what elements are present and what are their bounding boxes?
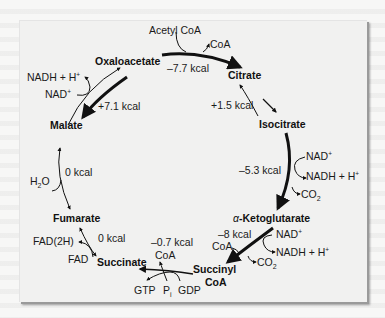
cofactor-co2-isocitrate: CO2 bbox=[301, 188, 321, 202]
metabolite-citrate: Citrate bbox=[228, 69, 261, 81]
arrow-succinate-fumarate bbox=[80, 228, 96, 256]
metabolite-isocitrate: Isocitrate bbox=[259, 118, 306, 130]
arrow-coa-in-akg bbox=[232, 248, 239, 253]
energy-fumarate-malate: 0 kcal bbox=[65, 166, 92, 178]
metabolite-fumarate: Fumarate bbox=[53, 212, 100, 224]
arrow-co2-isocitrate bbox=[292, 187, 300, 194]
metabolite-alpha-ketoglutarate: α-Ketoglutarate bbox=[233, 212, 310, 224]
cofactor-nad-malate: NAD+ bbox=[45, 88, 71, 100]
cofactor-fad2h: FAD(2H) bbox=[33, 235, 74, 247]
arrow-citrate-isocitrate-fwd bbox=[263, 99, 276, 112]
arrow-gdp-gtp bbox=[147, 272, 180, 281]
cofactor-gdp: GDP bbox=[178, 284, 201, 296]
arrow-fumarate-malate bbox=[59, 148, 70, 209]
cofactor-nadh-akg: NADH + H+ bbox=[276, 246, 329, 258]
cofactor-gtp: GTP bbox=[134, 284, 156, 296]
arrow-nad-nadh-isocitrate bbox=[294, 157, 306, 178]
energy-citrate-isocitrate: +1.5 kcal bbox=[211, 99, 253, 111]
cofactor-pi: Pi bbox=[163, 284, 172, 298]
arrow-nad-nadh-malate bbox=[77, 77, 90, 95]
cofactor-fad: FAD bbox=[68, 253, 89, 265]
metabolite-succinyl-coa-2: CoA bbox=[205, 276, 227, 288]
energy-succinylcoa-succinate: –0.7 kcal bbox=[151, 236, 193, 248]
cofactor-nad-akg: NAD+ bbox=[276, 228, 302, 240]
cofactor-coa-out: CoA bbox=[210, 38, 230, 50]
arrow-coa-out bbox=[203, 44, 209, 52]
cofactor-nad-isocitrate: NAD+ bbox=[306, 150, 332, 162]
cofactor-h2o: H2O bbox=[30, 175, 50, 189]
arrow-succinylcoa-to-succinate bbox=[140, 269, 193, 274]
arrow-coa-succinyl bbox=[160, 262, 167, 281]
energy-isocitrate-akg: –5.3 kcal bbox=[239, 164, 281, 176]
arrow-co2-akg bbox=[248, 256, 256, 262]
cofactor-acetyl-coa: Acetyl CoA bbox=[149, 24, 201, 36]
cofactor-coa-succinyl: CoA bbox=[155, 249, 175, 261]
energy-malate-oaa: +7.1 kcal bbox=[98, 100, 140, 112]
arrow-h2o bbox=[52, 180, 61, 191]
metabolite-succinyl-coa-1: Succinyl bbox=[193, 263, 236, 275]
cofactor-co2-akg: CO2 bbox=[257, 256, 277, 270]
metabolite-oxaloacetate: Oxaloacetate bbox=[95, 55, 161, 67]
cofactor-nadh-malate: NADH + H+ bbox=[27, 71, 80, 83]
metabolite-succinate: Succinate bbox=[97, 256, 147, 268]
energy-akg-succinylcoa: –8 kcal bbox=[218, 228, 251, 240]
cofactor-nadh-isocitrate: NADH + H+ bbox=[306, 170, 359, 182]
arrow-nad-nadh-akg bbox=[263, 235, 275, 252]
metabolite-malate: Malate bbox=[50, 119, 83, 131]
tca-cycle-diagram: Oxaloacetate Citrate Isocitrate α-Ketogl… bbox=[0, 0, 385, 318]
energy-succinate-fumarate: 0 kcal bbox=[98, 232, 125, 244]
cofactor-coa-akg: CoA bbox=[212, 240, 232, 252]
energy-oaa-citrate: –7.7 kcal bbox=[167, 62, 209, 74]
